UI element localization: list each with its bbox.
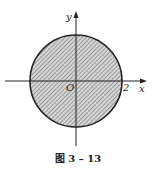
y-axis-label: y [65,11,72,22]
diagram: y x O 2 图 3 – 13 [0,0,157,172]
figure-caption: 图 3 – 13 [55,153,101,164]
y-axis-arrow-icon [74,11,79,18]
radius-label: 2 [122,82,129,93]
origin-label: O [66,82,74,93]
x-axis-label: x [139,83,145,94]
